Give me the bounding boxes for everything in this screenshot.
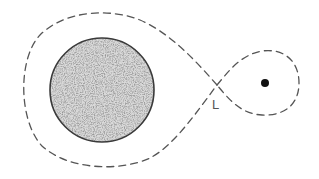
roche-lobe-diagram: L xyxy=(0,0,319,179)
lagrange-point-label: L xyxy=(212,97,219,112)
primary-body xyxy=(50,38,154,142)
inner-lobe-curve xyxy=(217,51,299,115)
secondary-body-dot xyxy=(261,79,269,87)
